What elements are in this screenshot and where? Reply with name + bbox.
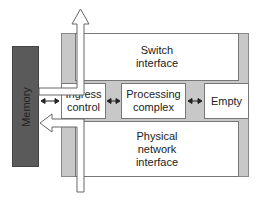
- double-arrow-memory-ingress: [41, 99, 59, 104]
- flow-arrows: [0, 0, 263, 206]
- double-arrow-processing-empty: [188, 99, 202, 104]
- double-arrow-ingress-processing: [107, 99, 120, 104]
- ingress-left-arrow: [40, 114, 84, 192]
- egress-up-arrow: [39, 9, 89, 95]
